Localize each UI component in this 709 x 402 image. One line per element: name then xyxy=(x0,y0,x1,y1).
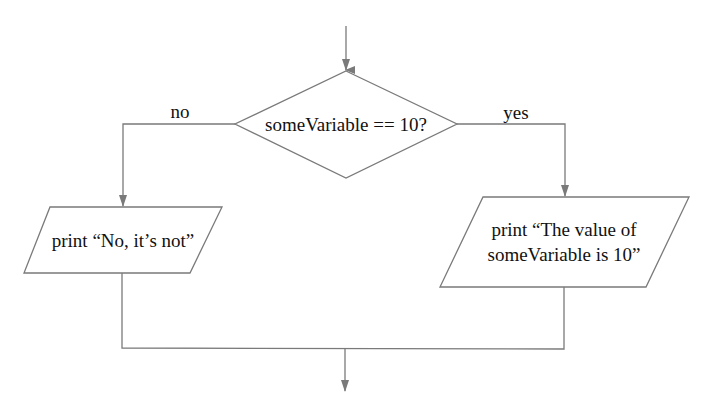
entry-arrowhead-icon xyxy=(342,59,350,71)
no-output-label: print “No, it’s not” xyxy=(52,230,194,252)
yes-output-line-1: print “The value of xyxy=(487,217,640,242)
yes-output-line-2: someVariable is 10” xyxy=(487,242,640,267)
decision-label: someVariable == 10? xyxy=(265,114,427,136)
exit-arrowhead-icon xyxy=(341,380,349,392)
no-branch-label: no xyxy=(171,101,190,123)
yes-output-label: print “The value of someVariable is 10” xyxy=(487,217,640,267)
yes-branch-connector xyxy=(457,124,565,196)
yes-branch-label: yes xyxy=(503,102,528,124)
no-branch-connector xyxy=(123,124,235,206)
yes-arrowhead-icon xyxy=(561,185,569,197)
flowchart-canvas xyxy=(0,0,709,402)
no-arrowhead-icon xyxy=(119,195,127,207)
